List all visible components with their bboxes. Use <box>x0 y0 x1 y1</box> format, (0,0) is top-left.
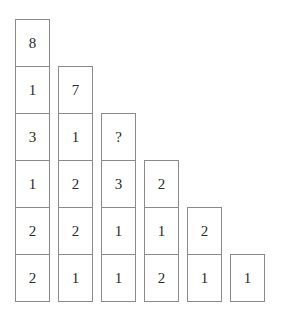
cell: 1 <box>187 254 222 302</box>
cell: 2 <box>144 254 179 302</box>
cell: 1 <box>15 66 50 114</box>
column-3: ? 3 1 1 <box>101 113 136 302</box>
column-4: 2 1 2 <box>144 160 179 302</box>
cell: 2 <box>144 160 179 208</box>
column-1: 8 1 3 1 2 2 <box>15 19 50 302</box>
cell: 2 <box>187 207 222 255</box>
cell: 1 <box>101 254 136 302</box>
cell: 8 <box>15 19 50 67</box>
cell: 2 <box>58 207 93 255</box>
cell: 1 <box>58 113 93 161</box>
cell: 1 <box>58 254 93 302</box>
number-column-diagram: 8 1 3 1 2 2 7 1 2 2 1 ? 3 1 1 2 1 2 2 1 … <box>0 0 285 325</box>
cell: 7 <box>58 66 93 114</box>
column-2: 7 1 2 2 1 <box>58 66 93 302</box>
unknown-cell: ? <box>101 113 136 161</box>
cell: 2 <box>58 160 93 208</box>
cell: 1 <box>144 207 179 255</box>
cell: 1 <box>230 254 265 302</box>
cell: 1 <box>101 207 136 255</box>
cell: 3 <box>101 160 136 208</box>
cell: 2 <box>15 207 50 255</box>
cell: 2 <box>15 254 50 302</box>
cell: 1 <box>15 160 50 208</box>
cell: 3 <box>15 113 50 161</box>
column-6: 1 <box>230 254 265 302</box>
column-5: 2 1 <box>187 207 222 302</box>
